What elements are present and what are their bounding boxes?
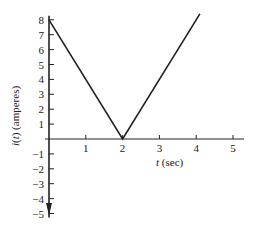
y-tick-label: 4 bbox=[39, 73, 45, 85]
chart: 1234587654321−1−2−3−4−5 t (sec) i(t) (am… bbox=[0, 0, 257, 229]
x-tick-label: 3 bbox=[157, 142, 163, 154]
axes bbox=[45, 16, 244, 218]
series-line bbox=[49, 14, 200, 139]
y-tick-label: −4 bbox=[32, 193, 44, 205]
y-axis-title: i(t) (amperes) bbox=[9, 86, 22, 147]
y-tick-label: 3 bbox=[39, 88, 45, 100]
y-tick-label: −1 bbox=[32, 148, 44, 160]
x-tick-label: 1 bbox=[83, 142, 89, 154]
ticks: 1234587654321−1−2−3−4−5 bbox=[32, 14, 236, 220]
y-tick-label: 8 bbox=[39, 14, 45, 26]
y-tick-label: 6 bbox=[39, 44, 45, 56]
x-tick-label: 2 bbox=[120, 142, 126, 154]
x-tick-label: 4 bbox=[193, 142, 199, 154]
y-tick-label: 2 bbox=[39, 103, 45, 115]
y-tick-label: −3 bbox=[32, 178, 44, 190]
y-tick-label: 5 bbox=[39, 59, 45, 71]
y-tick-label: 7 bbox=[39, 29, 45, 41]
y-tick-label: −2 bbox=[32, 163, 44, 175]
data-series bbox=[49, 14, 200, 139]
y-tick-label: −5 bbox=[32, 208, 44, 220]
x-tick-label: 5 bbox=[230, 142, 236, 154]
y-tick-label: 1 bbox=[39, 118, 45, 130]
x-axis-title: t (sec) bbox=[156, 156, 184, 169]
